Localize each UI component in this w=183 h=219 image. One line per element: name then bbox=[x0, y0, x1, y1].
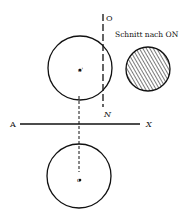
label-O: O bbox=[106, 14, 113, 23]
projection-diagram: O Schnitt nach ON N A X o' o bbox=[0, 0, 183, 219]
label-center-lower: o bbox=[77, 176, 81, 183]
label-center-upper: o' bbox=[78, 66, 84, 73]
label-X: X bbox=[145, 120, 152, 129]
label-A: A bbox=[9, 120, 16, 129]
label-N: N bbox=[103, 110, 112, 119]
section-circle-hatched bbox=[126, 47, 170, 91]
caption: Schnitt nach ON bbox=[115, 30, 179, 39]
